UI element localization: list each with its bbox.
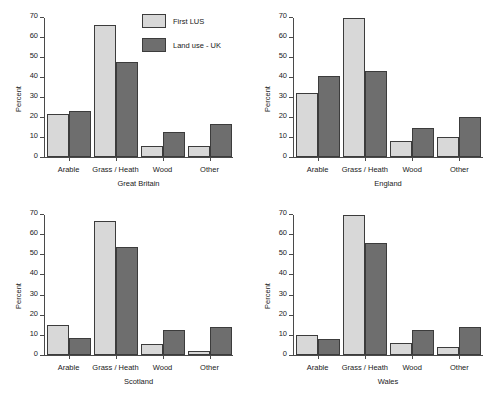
bar-group: Other [436, 215, 483, 355]
y-axis-tick-label: 60 [279, 32, 287, 40]
bar-group: Other [186, 215, 233, 355]
bar [94, 221, 116, 355]
y-axis-tick-mark [40, 117, 44, 118]
panel-scotland: Percent010203040506070ArableGrass / Heat… [0, 197, 249, 395]
bar-group: Wood [139, 215, 186, 355]
y-axis-tick-mark [40, 57, 44, 58]
x-axis-tick-mark [318, 355, 319, 359]
y-axis-tick-mark [40, 355, 44, 356]
y-axis-tick-label: 70 [30, 209, 38, 217]
x-axis-tick-mark [210, 157, 211, 161]
y-axis-tick-label: 10 [30, 330, 38, 338]
y-axis-tick-label: 30 [279, 290, 287, 298]
y-axis-tick-label: 30 [30, 290, 38, 298]
plot-area: 010203040506070ArableGrass / HeathWoodOt… [44, 215, 233, 356]
x-axis-tick-mark [318, 157, 319, 161]
x-axis-line [293, 157, 483, 158]
x-axis-tick-label: Wood [402, 165, 421, 174]
y-axis-tick-mark [40, 214, 44, 215]
bar [296, 93, 318, 157]
x-axis-tick-label: Grass / Heath [342, 363, 388, 372]
panel-wales: Percent010203040506070ArableGrass / Heat… [249, 197, 499, 395]
legend-label: First LUS [173, 17, 204, 26]
multi-panel-bar-chart-figure: Percent010203040506070ArableGrass / Heat… [0, 0, 499, 395]
bar [188, 351, 210, 355]
x-axis-tick-mark [210, 355, 211, 359]
legend-label: Land use - UK [173, 41, 221, 50]
y-axis-tick-label: 40 [279, 72, 287, 80]
bar [459, 117, 481, 157]
bar [210, 327, 232, 355]
bar-group: Wood [389, 18, 436, 157]
bar [116, 247, 138, 355]
y-axis-tick-mark [289, 77, 293, 78]
y-axis-tick-mark [40, 37, 44, 38]
bar-group: Arable [45, 215, 92, 355]
y-axis-tick-mark [289, 214, 293, 215]
bar [163, 330, 185, 355]
y-axis-label: Percent [263, 283, 272, 309]
bar [318, 76, 340, 157]
y-axis-tick-mark [289, 355, 293, 356]
x-axis-tick-mark [163, 355, 164, 359]
y-axis-label: Percent [14, 86, 23, 112]
y-axis-tick-mark [289, 315, 293, 316]
y-axis-tick-label: 40 [279, 269, 287, 277]
bar [141, 344, 163, 355]
y-axis-tick-label: 40 [30, 269, 38, 277]
panel-england: Percent010203040506070ArableGrass / Heat… [249, 0, 499, 197]
bar [47, 114, 69, 157]
y-axis-tick-mark [40, 295, 44, 296]
panel-title: Great Britain [44, 179, 233, 188]
y-axis-tick-label: 60 [30, 32, 38, 40]
y-axis-tick-mark [40, 77, 44, 78]
x-axis-tick-label: Arable [58, 363, 80, 372]
y-axis-tick-label: 60 [30, 229, 38, 237]
y-axis-tick-label: 10 [30, 132, 38, 140]
y-axis-tick-mark [289, 117, 293, 118]
bar-group: Wood [389, 215, 436, 355]
bar [412, 330, 434, 355]
y-axis-tick-mark [40, 254, 44, 255]
y-axis-tick-label: 10 [279, 330, 287, 338]
y-axis-tick-label: 40 [30, 72, 38, 80]
bar-groups: ArableGrass / HeathWoodOther [294, 215, 483, 355]
y-axis-tick-label: 30 [279, 92, 287, 100]
x-axis-line [44, 355, 233, 356]
y-axis-label: Percent [14, 283, 23, 309]
bar [210, 124, 232, 157]
x-axis-tick-label: Other [200, 363, 219, 372]
y-axis-tick-label: 70 [279, 12, 287, 20]
y-axis-tick-mark [40, 315, 44, 316]
bar [365, 71, 387, 157]
y-axis-tick-mark [289, 335, 293, 336]
y-axis-tick-mark [289, 254, 293, 255]
x-axis-tick-label: Other [450, 363, 469, 372]
y-axis-tick-mark [40, 97, 44, 98]
y-axis-tick-mark [289, 97, 293, 98]
x-axis-tick-mark [163, 157, 164, 161]
x-axis-tick-mark [365, 355, 366, 359]
x-axis-tick-mark [69, 157, 70, 161]
y-axis-tick-label: 30 [30, 92, 38, 100]
y-axis-tick-mark [289, 37, 293, 38]
bar [437, 137, 459, 157]
bar-group: Arable [45, 18, 92, 157]
chart-legend: First LUSLand use - UK [142, 14, 221, 62]
bar-groups: ArableGrass / HeathWoodOther [294, 18, 483, 157]
y-axis-tick-mark [40, 335, 44, 336]
y-axis-tick-mark [289, 274, 293, 275]
y-axis-tick-label: 70 [279, 209, 287, 217]
x-axis-tick-label: Wood [153, 165, 172, 174]
x-axis-line [293, 355, 483, 356]
plot-area: 010203040506070ArableGrass / HeathWoodOt… [293, 215, 483, 356]
bar [365, 243, 387, 355]
y-axis-tick-mark [289, 17, 293, 18]
panel-title: Scotland [44, 377, 233, 386]
plot-area: 010203040506070ArableGrass / HeathWoodOt… [293, 18, 483, 158]
y-axis-tick-mark [40, 234, 44, 235]
x-axis-tick-mark [412, 355, 413, 359]
y-axis-tick-label: 50 [30, 249, 38, 257]
bar-groups: ArableGrass / HeathWoodOther [45, 215, 233, 355]
y-axis-tick-mark [40, 157, 44, 158]
